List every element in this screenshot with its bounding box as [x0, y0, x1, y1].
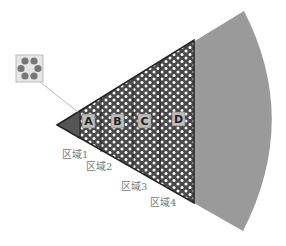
region-label-4: 区域4	[150, 196, 176, 208]
zone-label-c: C	[138, 114, 151, 128]
leader-line	[40, 82, 78, 112]
zone-letter: D	[174, 113, 183, 126]
zone-label-b: B	[111, 114, 124, 128]
region-label-1: 区域1	[62, 148, 88, 160]
zone-label-a: A	[82, 114, 95, 128]
zone-letter: A	[84, 115, 93, 128]
zone-letter: B	[113, 115, 121, 128]
inset-detail	[16, 55, 43, 82]
zone-letter: C	[140, 115, 148, 128]
apex-triangle	[57, 111, 80, 139]
region-label-2: 区域2	[86, 160, 112, 172]
region-label-3: 区域3	[121, 180, 147, 192]
sector-diagram: A B C D 区域1 区域2 区域3 区域4	[0, 0, 286, 246]
zone-label-d: D	[172, 112, 185, 126]
